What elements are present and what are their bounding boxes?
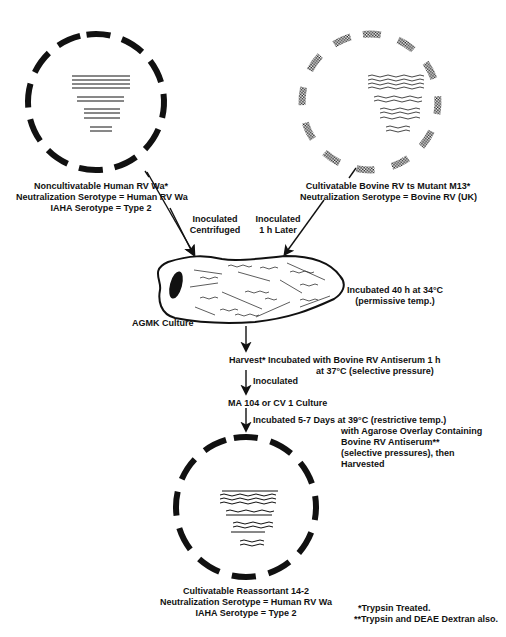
- reassortant-neutralization: Neutralization Serotype = Human RV Wa: [160, 597, 332, 608]
- incubation-2-line2: with Agarose Overlay Containing: [341, 426, 482, 437]
- right-arrow-label: Inoculated 1 h Later: [248, 214, 308, 236]
- right-virus-neutralization: Neutralization Serotype = Bovine RV (UK): [300, 192, 476, 203]
- footnote-2: **Trypsin and DEAE Dextran also.: [354, 614, 498, 625]
- inoculated-label: Inoculated: [253, 376, 298, 387]
- incubation-2-line1: Incubated 5-7 Days at 39°C (restrictive …: [253, 415, 446, 426]
- second-culture-label: MA 104 or CV 1 Culture: [228, 398, 327, 409]
- agmk-culture-cell: [158, 256, 344, 323]
- genome-segments-wavy: [368, 75, 424, 132]
- diagram-graphics: [0, 0, 506, 637]
- genome-segments-straight: [72, 76, 130, 131]
- bovine-rv-virion: [295, 27, 444, 176]
- incubation-1-line1: Incubated 40 h at 34°C: [340, 285, 450, 296]
- harvest-label-line2: at 37°C (selective pressure): [316, 366, 434, 377]
- left-virus-iaha: IAHA Serotype = Type 2: [16, 203, 186, 214]
- reassortant-iaha: IAHA Serotype = Type 2: [160, 608, 332, 619]
- left-virus-name: Noncultivatable Human RV Wa*: [16, 181, 186, 192]
- right-virus-name: Cultivatable Bovine RV ts Mutant M13*: [300, 181, 476, 192]
- incubation-1-line2: (permissive temp.): [340, 296, 450, 307]
- harvest-label-line1: Harvest* Incubated with Bovine RV Antise…: [229, 355, 441, 366]
- incubation-2-line5: Harvested: [341, 459, 385, 470]
- incubation-2-line3: Bovine RV Antiserum**: [341, 437, 440, 448]
- incubation-2-line4: (selective pressures), then: [341, 448, 455, 459]
- right-arrow-label-line2: 1 h Later: [248, 225, 308, 236]
- left-arrow-label-line2: Centrifuged: [180, 225, 250, 236]
- left-arrow-label: Inoculated Centrifuged: [180, 214, 250, 236]
- right-arrow-label-line1: Inoculated: [248, 214, 308, 225]
- reassortant-virion: [165, 426, 327, 588]
- left-arrow-label-line1: Inoculated: [180, 214, 250, 225]
- human-rv-virion: [19, 25, 173, 179]
- footnote-1: *Trypsin Treated.: [358, 603, 431, 614]
- incubation-1-label: Incubated 40 h at 34°C (permissive temp.…: [340, 285, 450, 307]
- reassortant-name: Cultivatable Reassortant 14-2: [160, 586, 332, 597]
- left-virus-neutralization: Neutralization Serotype = Human RV Wa: [16, 192, 186, 203]
- right-virus-label: Cultivatable Bovine RV ts Mutant M13* Ne…: [300, 181, 476, 203]
- left-virus-label: Noncultivatable Human RV Wa* Neutralizat…: [16, 181, 186, 214]
- agmk-culture-label: AGMK Culture: [132, 318, 194, 329]
- reassortant-label: Cultivatable Reassortant 14-2 Neutraliza…: [160, 586, 332, 619]
